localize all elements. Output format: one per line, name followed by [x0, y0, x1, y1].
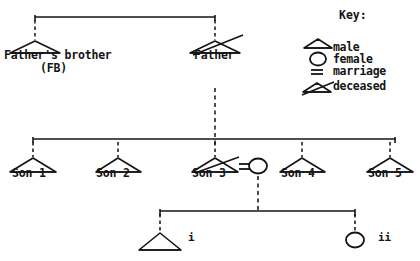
- node-label-father: Father: [194, 49, 234, 61]
- node-label-son5: Son 5: [368, 167, 402, 179]
- key-title: Key:: [339, 9, 367, 21]
- node-label-fb-line1: Father's brother: [4, 49, 112, 61]
- kinship-diagram: Father's brother (FB) Father Son 1 Son 2…: [0, 0, 420, 261]
- node-label-son3: Son 3: [192, 167, 226, 179]
- key-label-deceased: deceased: [333, 80, 386, 92]
- key-male-triangle-icon: [304, 39, 332, 48]
- node-label-son4: Son 4: [281, 167, 315, 179]
- key-label-marriage: marriage: [333, 65, 386, 77]
- female-circle-child-ii: [346, 233, 364, 248]
- node-label-son1: Son 1: [12, 167, 46, 179]
- node-label-fb-line2: (FB): [40, 62, 67, 74]
- node-label-child-ii: ii: [378, 232, 391, 244]
- node-label-child-i: i: [188, 232, 195, 244]
- node-label-son2: Son 2: [96, 167, 130, 179]
- female-circle-son3-wife: [249, 159, 267, 174]
- key-female-circle-icon: [310, 53, 326, 66]
- male-triangle-child-i: [139, 233, 181, 250]
